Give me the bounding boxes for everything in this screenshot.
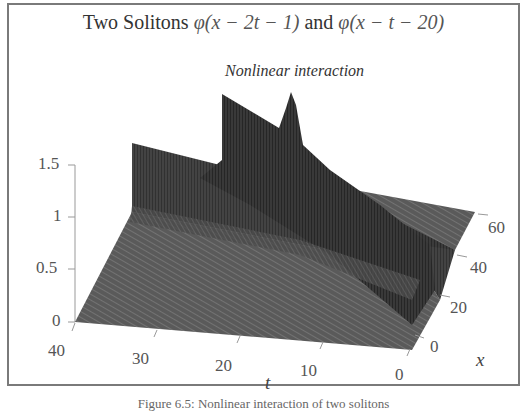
t-tick-40: 40 (48, 341, 65, 361)
x-tick-20: 20 (450, 298, 467, 318)
t-tick-0: 0 (395, 365, 404, 385)
z-tick-0.5: 0.5 (36, 258, 57, 278)
t-axis-label: t (265, 372, 270, 394)
t-tick-30: 30 (132, 349, 149, 369)
figure-caption: Figure 6.5: Nonlinear interaction of two… (0, 396, 527, 412)
z-tick-1.5: 1.5 (38, 154, 59, 174)
x-tick-40: 40 (470, 258, 487, 278)
t-tick-10: 10 (300, 361, 317, 381)
z-axis (68, 165, 75, 322)
z-tick-1: 1 (53, 206, 62, 226)
x-tick-60: 60 (488, 218, 505, 238)
x-axis-label: x (476, 349, 484, 371)
x-tick-0: 0 (430, 337, 439, 357)
t-tick-20: 20 (215, 356, 232, 376)
z-tick-0: 0 (52, 311, 61, 331)
